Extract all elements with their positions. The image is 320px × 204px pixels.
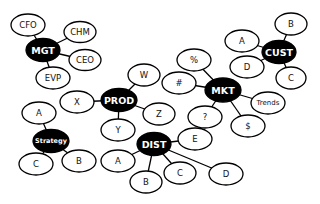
node-prod-x-label: X <box>74 97 80 107</box>
node-strategy-a-label: A <box>36 108 42 118</box>
hub-node-cust: CUST <box>262 41 296 64</box>
mind-map-diagram: CFOCHMCEOEVPMGTABDCCUST%#Trends?$MKTWXZY… <box>0 0 320 204</box>
hub-node-mkt: MKT <box>205 78 241 102</box>
node-cust-b-label: B <box>288 19 294 29</box>
node-strategy-b: B <box>62 150 96 172</box>
node-mgt-evp-label: EVP <box>45 73 61 83</box>
node-prod-y: Y <box>101 119 135 141</box>
node-mkt-percent: % <box>177 49 211 71</box>
node-prod-z: Z <box>143 103 175 125</box>
node-dist-a-label: A <box>115 156 121 166</box>
node-strategy-b-label: B <box>76 156 82 166</box>
node-strategy-a: A <box>22 102 56 124</box>
node-strategy-c-label: C <box>33 159 39 169</box>
node-mgt-chm-label: CHM <box>70 27 90 37</box>
node-dist-b: B <box>130 171 162 193</box>
node-dist-c-label: C <box>177 168 183 178</box>
node-dist-d: D <box>209 163 243 185</box>
node-mgt-chm: CHM <box>64 22 96 43</box>
node-mgt-cfo: CFO <box>11 14 45 36</box>
node-mgt-ceo: CEO <box>69 50 101 71</box>
hub-node-mgt-label: MGT <box>31 45 55 56</box>
node-cust-d-label: D <box>244 62 251 72</box>
node-strategy-c: C <box>19 153 53 175</box>
node-dist-b-label: B <box>143 177 149 187</box>
node-prod-y-label: Y <box>114 125 121 135</box>
node-mgt-cfo-label: CFO <box>19 20 37 30</box>
nodes: CFOCHMCEOEVPMGTABDCCUST%#Trends?$MKTWXZY… <box>11 13 307 193</box>
hub-node-strategy: Strategy <box>33 130 69 153</box>
node-cust-b: B <box>275 13 307 35</box>
node-prod-w-label: W <box>140 70 149 80</box>
hub-node-prod: PROD <box>101 89 137 112</box>
hub-node-dist-label: DIST <box>142 139 167 150</box>
node-prod-x: X <box>60 91 94 113</box>
node-cust-d: D <box>230 56 264 78</box>
hub-node-strategy-label: Strategy <box>35 137 68 145</box>
node-cust-a-label: A <box>239 36 245 46</box>
node-mkt-percent-label: % <box>190 55 198 65</box>
node-mkt-dollar-label: $ <box>245 121 250 131</box>
node-mkt-trends-label: Trends <box>256 99 280 107</box>
hub-node-mkt-label: MKT <box>211 85 235 96</box>
node-prod-z-label: Z <box>156 109 162 119</box>
node-mgt-ceo-label: CEO <box>76 55 94 65</box>
node-cust-a: A <box>225 30 259 52</box>
node-dist-a: A <box>101 150 135 172</box>
node-mkt-hash: # <box>162 72 196 94</box>
node-mkt-trends: Trends <box>251 92 285 114</box>
node-dist-e-label: E <box>192 134 197 144</box>
node-mkt-question-label: ? <box>203 112 208 122</box>
node-dist-c: C <box>164 162 196 184</box>
hub-node-cust-label: CUST <box>265 47 294 58</box>
hub-node-mgt: MGT <box>26 39 60 62</box>
node-mkt-dollar: $ <box>231 115 265 137</box>
node-mgt-evp: EVP <box>36 67 70 89</box>
node-cust-c-label: C <box>288 73 294 83</box>
node-mkt-hash-label: # <box>175 78 182 88</box>
node-mkt-question: ? <box>188 106 222 128</box>
hub-node-dist: DIST <box>137 133 171 156</box>
node-prod-w: W <box>128 64 160 86</box>
node-dist-e: E <box>178 128 212 150</box>
node-cust-c: C <box>276 67 306 89</box>
hub-node-prod-label: PROD <box>104 95 134 106</box>
node-dist-d-label: D <box>223 169 230 179</box>
